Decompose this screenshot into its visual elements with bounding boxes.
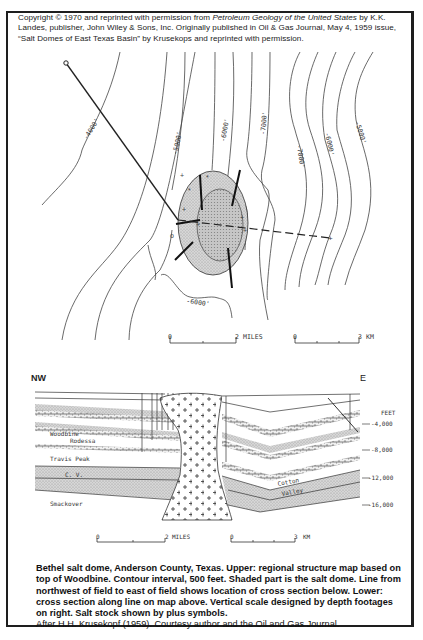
contour-line bbox=[172, 52, 185, 190]
svg-text:0: 0 bbox=[230, 533, 234, 540]
figure-caption: Bethel salt dome, Anderson County, Texas… bbox=[36, 563, 406, 631]
salt-stock bbox=[160, 393, 232, 520]
caption-main: Bethel salt dome, Anderson County, Texas… bbox=[36, 563, 401, 618]
contour-line bbox=[285, 52, 306, 290]
cross-section: NW E Woo bbox=[31, 373, 396, 542]
contour-line bbox=[247, 52, 269, 320]
svg-text:0: 0 bbox=[293, 333, 297, 341]
depth-axis: FEET -4,000 -8,000 -12,000 -16,000 bbox=[362, 409, 396, 508]
contour-line bbox=[95, 52, 195, 340]
depth-unit: FEET bbox=[381, 409, 396, 416]
svg-text:-16,000: -16,000 bbox=[368, 501, 394, 508]
svg-text:-4,000: -4,000 bbox=[371, 420, 393, 427]
svg-text:-8,000: -8,000 bbox=[371, 446, 393, 453]
contour-line bbox=[328, 52, 355, 285]
svg-text:-12,000: -12,000 bbox=[368, 474, 394, 481]
svg-text:+: + bbox=[180, 172, 184, 179]
label-cv: C. V. bbox=[65, 471, 83, 478]
svg-text:o: o bbox=[170, 232, 174, 239]
svg-text:+: + bbox=[328, 234, 333, 243]
contour-label: -6000' bbox=[186, 297, 210, 308]
contour-label: -5000' bbox=[353, 120, 368, 145]
svg-text:0: 0 bbox=[168, 333, 172, 341]
caption-credit: After H.H. Krusekopf (1959). Courtesy au… bbox=[36, 619, 339, 629]
svg-text:*: * bbox=[206, 174, 209, 181]
contour-line bbox=[212, 52, 215, 170]
svg-text:+: + bbox=[182, 206, 186, 213]
contour-line bbox=[299, 52, 323, 287]
contour-label: -4000' bbox=[82, 117, 101, 141]
svg-text:0: 0 bbox=[96, 533, 100, 540]
contour-label: -6000' bbox=[323, 132, 336, 157]
label-woodbine: Woodbine bbox=[50, 430, 79, 437]
figure-graphics: + +* *+ o+ ++ -4000' -5000' -6000' -7000… bbox=[0, 0, 423, 640]
svg-text:MILES: MILES bbox=[172, 533, 190, 540]
map-scale-bars: 0 2 MILES 0 3 KM bbox=[168, 333, 374, 343]
svg-text:2: 2 bbox=[165, 533, 169, 540]
svg-text:+: + bbox=[240, 214, 244, 221]
contour-line bbox=[129, 230, 172, 340]
svg-text:3: 3 bbox=[294, 533, 298, 540]
contour-line bbox=[345, 52, 373, 285]
svg-text:KM: KM bbox=[366, 333, 374, 341]
label-travis-peak: Travis Peak bbox=[50, 455, 90, 462]
contour-line bbox=[315, 52, 338, 285]
contour-line bbox=[42, 52, 120, 205]
svg-text:MILES: MILES bbox=[243, 333, 263, 341]
svg-text:+: + bbox=[196, 221, 200, 228]
svg-text:2: 2 bbox=[235, 333, 239, 341]
svg-text:*: * bbox=[188, 187, 191, 194]
contour-label: -6000' bbox=[219, 118, 231, 143]
svg-text:3: 3 bbox=[358, 333, 362, 341]
contour-line bbox=[161, 274, 232, 318]
svg-text:KM: KM bbox=[303, 533, 311, 540]
label-rodessa: Rodessa bbox=[70, 437, 96, 444]
label-smackover: Smackover bbox=[50, 500, 83, 507]
direction-nw: NW bbox=[31, 373, 46, 383]
contour-label: -5000' bbox=[171, 131, 184, 156]
svg-text:+: + bbox=[243, 227, 247, 234]
contour-label: -7000' bbox=[295, 144, 306, 168]
contour-line bbox=[62, 52, 167, 340]
contour-line bbox=[148, 245, 156, 280]
contour-line bbox=[261, 52, 275, 300]
direction-e: E bbox=[360, 373, 366, 383]
